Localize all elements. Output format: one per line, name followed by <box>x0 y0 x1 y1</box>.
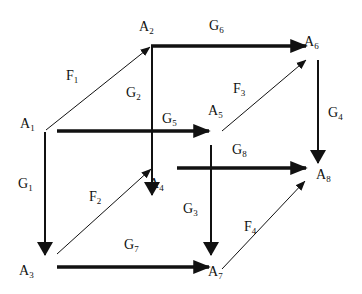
label-G7: G7 <box>124 237 139 254</box>
label-G1: G1 <box>18 176 33 193</box>
label-G2: G2 <box>126 85 141 102</box>
label-G8: G8 <box>232 142 247 159</box>
node-A5: A5 <box>208 103 223 120</box>
node-A2: A2 <box>139 19 154 36</box>
label-G3: G3 <box>183 201 198 218</box>
label-G5: G5 <box>162 111 177 128</box>
label-G6: G6 <box>209 18 224 35</box>
node-A8: A8 <box>316 167 331 184</box>
node-A7: A7 <box>208 264 223 281</box>
node-A4: A4 <box>149 176 164 193</box>
label-F3: F3 <box>233 81 246 98</box>
edge-F4 <box>222 181 305 269</box>
label-F1: F1 <box>66 68 78 85</box>
label-F2: F2 <box>89 189 101 206</box>
node-A6: A6 <box>304 34 319 51</box>
label-F4: F4 <box>244 219 257 236</box>
cube-diagram: A1 A2 A3 A4 A5 A6 A7 A8 F1 F2 F3 F4 G1 G… <box>0 0 362 294</box>
edge-F2 <box>57 169 151 254</box>
node-A1: A1 <box>20 116 35 133</box>
label-G4: G4 <box>328 105 343 122</box>
node-A3: A3 <box>19 263 34 280</box>
